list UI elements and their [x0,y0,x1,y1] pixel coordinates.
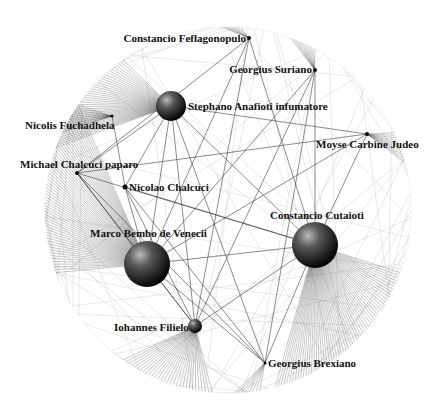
node-brexiano[interactable] [264,362,267,365]
node-feflagonopulo[interactable] [247,36,251,40]
node-chalcuci_paparo[interactable] [75,171,79,175]
node-label: Constancio Feflagonopulo [123,32,246,44]
node-nicolao[interactable] [123,185,128,190]
node-filielo[interactable] [188,319,202,333]
node-suriano[interactable] [313,68,317,72]
nodes [75,36,369,365]
node-bembo[interactable] [124,241,170,287]
node-label: Constancio Cutaioti [270,209,364,221]
node-label: Marco Bembo de Venecii [90,227,207,239]
node-carbine[interactable] [365,132,369,136]
node-label: Nicolao Chalcuci [129,181,209,193]
node-label: Stephano Anafioti infumatore [188,100,328,112]
edge-fan-brexiano [234,363,265,393]
network-graph: Constancio FeflagonopuloGeorgius Suriano… [0,0,432,411]
node-label: Iohannes Filielo [114,321,189,333]
node-label: Georgius Suriano [229,63,312,75]
node-label: Michael Chalcuci paparo [20,158,139,170]
node-label: Georgius Brexiano [268,357,357,369]
edge [147,245,315,264]
node-label: Nicolis Fuchadhela [25,119,115,131]
node-label: Moyse Carbine Judeo [316,138,419,150]
edge-fan-filielo [123,326,212,392]
node-fuchadhela[interactable] [111,115,114,118]
node-anafioti[interactable] [156,91,186,121]
node-cutaioti[interactable] [292,222,338,268]
